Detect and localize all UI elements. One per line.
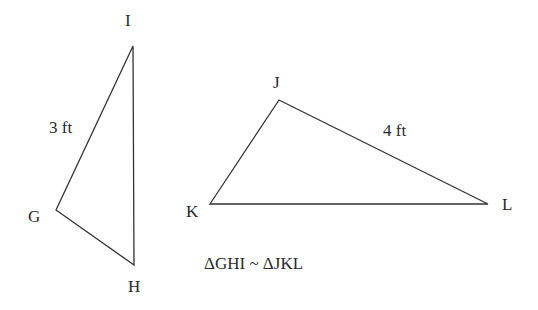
- vertex-label-i: I: [125, 11, 131, 30]
- vertex-label-j: J: [273, 73, 280, 92]
- vertex-label-h: H: [128, 277, 140, 296]
- side-label-jl: 4 ft: [383, 121, 406, 140]
- similar-triangles-diagram: I G H 3 ft J K L 4 ft ΔGHI ~ ΔJKL: [0, 0, 538, 310]
- vertex-label-g: G: [28, 207, 40, 226]
- triangle-jkl: J K L 4 ft: [186, 73, 512, 221]
- vertex-label-k: K: [186, 202, 199, 221]
- triangle-ghi-outline: [56, 46, 134, 265]
- vertex-label-l: L: [502, 195, 512, 214]
- similarity-statement: ΔGHI ~ ΔJKL: [204, 254, 303, 273]
- triangle-ghi: I G H 3 ft: [28, 11, 140, 296]
- triangle-jkl-outline: [210, 100, 488, 204]
- side-label-gi: 3 ft: [49, 118, 72, 137]
